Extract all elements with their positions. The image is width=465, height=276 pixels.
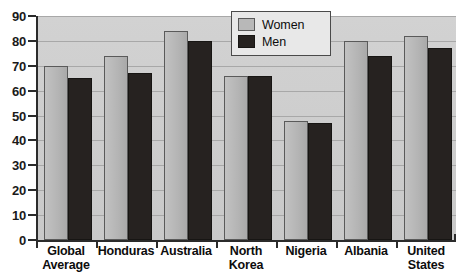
- bar-group: [164, 16, 212, 240]
- x-axis-labels: GlobalAverageHondurasAustraliaNorthKorea…: [36, 244, 456, 276]
- legend-swatch-women-icon: [238, 18, 255, 31]
- legend-item-men[interactable]: Men: [238, 33, 324, 50]
- bar-women: [164, 31, 188, 240]
- bar-women: [224, 76, 248, 240]
- x-axis-line: [36, 240, 456, 242]
- y-axis: 0102030405060708090: [0, 0, 36, 253]
- y-tick-label: 80: [12, 33, 26, 48]
- y-tick-mark: [28, 115, 36, 117]
- legend-label-women: Women: [262, 18, 304, 32]
- x-tick-label: Nigeria: [276, 244, 336, 258]
- legend-label-men: Men: [262, 35, 286, 49]
- bar-women: [104, 56, 128, 240]
- bar-women: [44, 66, 68, 240]
- y-tick-mark: [28, 40, 36, 42]
- y-tick-label: 30: [12, 158, 26, 173]
- bar-men: [248, 76, 272, 240]
- bar-men: [308, 123, 332, 240]
- bar-group: [44, 16, 92, 240]
- bar-group: [404, 16, 452, 240]
- y-tick-mark: [28, 189, 36, 191]
- bar-women: [284, 121, 308, 240]
- y-tick-label: 20: [12, 183, 26, 198]
- x-tick-label: GlobalAverage: [36, 244, 96, 272]
- bar-men: [188, 41, 212, 240]
- y-tick-label: 60: [12, 83, 26, 98]
- x-tick-label: Australia: [156, 244, 216, 258]
- x-tick-label: Honduras: [96, 244, 156, 258]
- legend-item-women[interactable]: Women: [238, 16, 324, 33]
- x-axis-end-cap: [454, 234, 456, 242]
- y-tick-mark: [28, 239, 36, 241]
- y-tick-mark: [28, 214, 36, 216]
- y-tick-mark: [28, 139, 36, 141]
- bar-group: [104, 16, 152, 240]
- y-tick-label: 40: [12, 133, 26, 148]
- y-tick-mark: [28, 164, 36, 166]
- bar-men: [128, 73, 152, 240]
- legend-swatch-men-icon: [238, 35, 255, 48]
- y-tick-label: 50: [12, 108, 26, 123]
- x-tick-label: Albania: [336, 244, 396, 258]
- y-tick-mark: [28, 15, 36, 17]
- y-tick-label: 70: [12, 58, 26, 73]
- bar-men: [428, 48, 452, 240]
- y-tick-label: 0: [19, 233, 26, 248]
- y-tick-label: 10: [12, 208, 26, 223]
- y-tick-mark: [28, 90, 36, 92]
- x-tick-label: UnitedStates: [396, 244, 456, 272]
- bar-men: [68, 78, 92, 240]
- bar-women: [344, 41, 368, 240]
- y-tick-label: 90: [12, 9, 26, 24]
- x-tick-label: NorthKorea: [216, 244, 276, 272]
- bar-men: [368, 56, 392, 240]
- y-tick-mark: [28, 65, 36, 67]
- bar-group: [344, 16, 392, 240]
- legend: Women Men: [231, 11, 331, 56]
- bar-women: [404, 36, 428, 240]
